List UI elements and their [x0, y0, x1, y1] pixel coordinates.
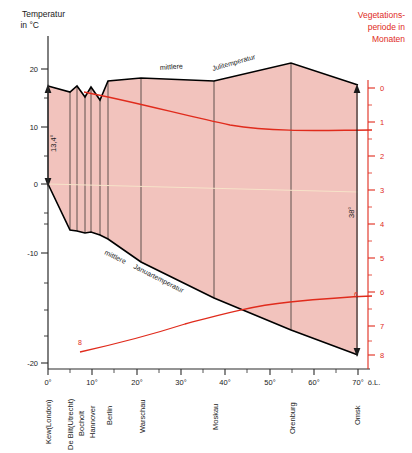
- x-tick-50: 50°: [264, 378, 275, 387]
- july-curve-label-part2: Julitemperatur: [211, 53, 256, 73]
- x-tick-10: 10°: [86, 378, 97, 387]
- climate-chart: Temperatur in °C 20 10 0 -10 -20 0° 10° …: [0, 0, 412, 453]
- chart-svg: Temperatur in °C 20 10 0 -10 -20 0° 10° …: [0, 0, 412, 453]
- x-tick-60: 60°: [308, 378, 319, 387]
- y-tick-10: 10: [30, 123, 38, 132]
- x-tick-20: 20°: [131, 378, 142, 387]
- city-label-omsk: Omsk: [353, 405, 362, 425]
- city-label-orenburg: Orenburg: [288, 402, 297, 434]
- vegetation-axis-minor-ticks: [368, 105, 372, 341]
- january-curve-label-part1: mittlere: [104, 249, 128, 265]
- city-label-kew: Kew(London): [44, 399, 53, 444]
- x-tick-70: 70°: [352, 378, 363, 387]
- vegetation-label-right: 6: [354, 291, 358, 298]
- y-axis-title-line1: Temperatur: [22, 9, 65, 19]
- city-label-bocholt: Bocholt: [77, 410, 86, 436]
- vegetation-axis-ticks: [368, 88, 375, 355]
- july-curve-label-part1: mittlere: [160, 62, 183, 71]
- amplitude-label-right: 38°: [347, 207, 356, 218]
- vegetation-tick-3: 3: [380, 186, 384, 195]
- city-label-debilt: De Bilt(Utrecht): [66, 398, 75, 450]
- vegetation-axis-title-line3: Monaten: [372, 34, 405, 44]
- x-axis-unit-label: ö.L.: [368, 378, 381, 387]
- amplitude-label-left: 13,4°: [49, 134, 58, 152]
- vegetation-tick-2: 2: [380, 152, 384, 161]
- vegetation-tick-1: 1: [380, 118, 384, 127]
- vegetation-tick-4: 4: [380, 220, 384, 229]
- temperature-range-area: [48, 63, 358, 355]
- y-tick-neg20: -20: [27, 359, 38, 368]
- x-tick-40: 40°: [219, 378, 230, 387]
- y-axis-major-ticks: [41, 69, 48, 363]
- vegetation-label-left: 8: [78, 339, 82, 346]
- y-axis-title-line2: in °C: [20, 20, 39, 30]
- city-label-berlin: Berlin: [105, 406, 114, 425]
- x-tick-0: 0°: [44, 378, 51, 387]
- city-label-hannover: Hannover: [88, 405, 97, 438]
- city-label-moskau: Moskau: [211, 404, 220, 430]
- vegetation-axis-title-line2: periode in: [368, 22, 406, 32]
- city-label-warschau: Warschau: [138, 400, 147, 433]
- vegetation-tick-5: 5: [380, 254, 384, 263]
- y-tick-0: 0: [34, 180, 38, 189]
- y-tick-neg10: -10: [27, 249, 38, 258]
- y-tick-20: 20: [30, 65, 38, 74]
- vegetation-tick-8: 8: [380, 351, 384, 360]
- x-tick-30: 30°: [175, 378, 186, 387]
- vegetation-axis-title-line1: Vegetations-: [358, 10, 405, 20]
- vegetation-tick-7: 7: [380, 322, 384, 331]
- vegetation-tick-0: 0: [380, 84, 384, 93]
- vegetation-tick-6: 6: [380, 288, 384, 297]
